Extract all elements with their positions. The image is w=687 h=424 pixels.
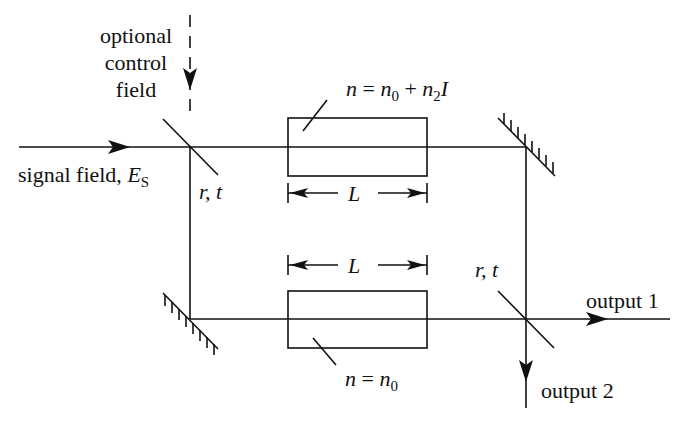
length-top-label: L (348, 183, 360, 205)
signal-field-label: signal field, ES (18, 164, 149, 190)
n0-symbol: n (380, 76, 391, 101)
arrowheads (108, 68, 608, 382)
control-field-line-1: optional (86, 22, 186, 49)
length-bottom-label: L (348, 255, 360, 277)
bs1-rt-label: r, t (199, 181, 222, 203)
output1-label: output 1 (586, 290, 659, 312)
equals: = (356, 366, 379, 391)
nonlinear-leader (303, 100, 327, 131)
n0-sub: 0 (391, 88, 399, 104)
control-field-line-2: control (86, 49, 186, 76)
signal-subscript: S (141, 174, 149, 190)
bs2-rt-label: r, t (475, 259, 498, 281)
output2-label: output 2 (541, 380, 614, 402)
control-field-label: optional control field (86, 22, 186, 103)
n2-sub: 2 (433, 88, 441, 104)
mirror-hatch-top-right (504, 113, 553, 173)
n-symbol: n (345, 366, 356, 391)
plus: + (399, 76, 422, 101)
linear-leader (313, 338, 336, 365)
control-field-line-3: field (86, 76, 186, 103)
n2-symbol: n (422, 76, 433, 101)
signal-field-text: signal field, (18, 162, 127, 187)
nonlinear-index-label: n = n0 + n2I (346, 78, 448, 104)
interferometer-diagram: optional control field signal field, ES … (0, 0, 687, 424)
n0-symbol: n (379, 366, 390, 391)
intensity-symbol: I (441, 76, 448, 101)
n0-sub: 0 (390, 378, 398, 394)
equals: = (357, 76, 380, 101)
linear-index-label: n = n0 (345, 368, 398, 394)
signal-symbol: E (127, 162, 140, 187)
n-symbol: n (346, 76, 357, 101)
